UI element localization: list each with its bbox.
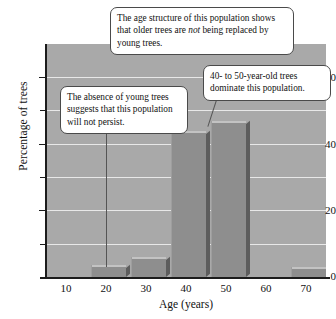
x-axis-label-60: 60	[251, 283, 281, 294]
x-axis-line	[40, 277, 330, 279]
bar-top-highlight	[132, 257, 166, 259]
callout-age-structure: The age structure of this population sho…	[110, 7, 294, 55]
bar-side-shadow	[246, 121, 250, 277]
bar-age-50	[211, 121, 246, 277]
x-axis-label-10: 10	[51, 283, 81, 294]
y-tick-major-40	[39, 144, 46, 145]
y-axis-label-20: 20	[300, 205, 336, 216]
x-axis-label-50: 50	[211, 283, 241, 294]
y-axis-label-40: 40	[300, 139, 336, 150]
bar-chart-figure: 60 40 20 0 10 20 30 40 50 60 70 Percenta…	[0, 0, 336, 319]
bar-top-highlight	[292, 267, 326, 269]
x-axis-title: Age (years)	[46, 298, 326, 310]
bar-age-30	[131, 257, 166, 277]
bar-side-shadow	[206, 131, 210, 277]
y-axis-title: Percentage of trees	[17, 56, 29, 196]
bar-age-20	[91, 265, 126, 277]
bar-age-40	[171, 131, 206, 277]
callout-text-emphasis: not	[188, 25, 200, 35]
x-axis-label-70: 70	[291, 283, 321, 294]
bar-side-shadow	[126, 265, 130, 277]
leader-line-left-callout	[106, 133, 107, 267]
callout-absence-of-young-trees: The absence of young trees suggests that…	[60, 86, 188, 134]
y-axis-label-0: 0	[300, 271, 336, 282]
bar-side-shadow	[166, 257, 170, 277]
bar-top-highlight	[212, 121, 246, 123]
y-axis-line	[45, 44, 47, 278]
x-axis-label-40: 40	[171, 283, 201, 294]
x-axis-label-30: 30	[131, 283, 161, 294]
y-tick-minor-10	[40, 244, 46, 245]
bar-top-highlight	[92, 265, 126, 267]
x-axis-label-20: 20	[91, 283, 121, 294]
y-tick-minor-50	[40, 110, 46, 111]
callout-dominant-age-class: 40- to 50-year-old trees dominate this p…	[203, 65, 331, 101]
y-tick-minor-30	[40, 177, 46, 178]
y-tick-major-60	[39, 77, 46, 78]
y-tick-major-20	[39, 210, 46, 211]
